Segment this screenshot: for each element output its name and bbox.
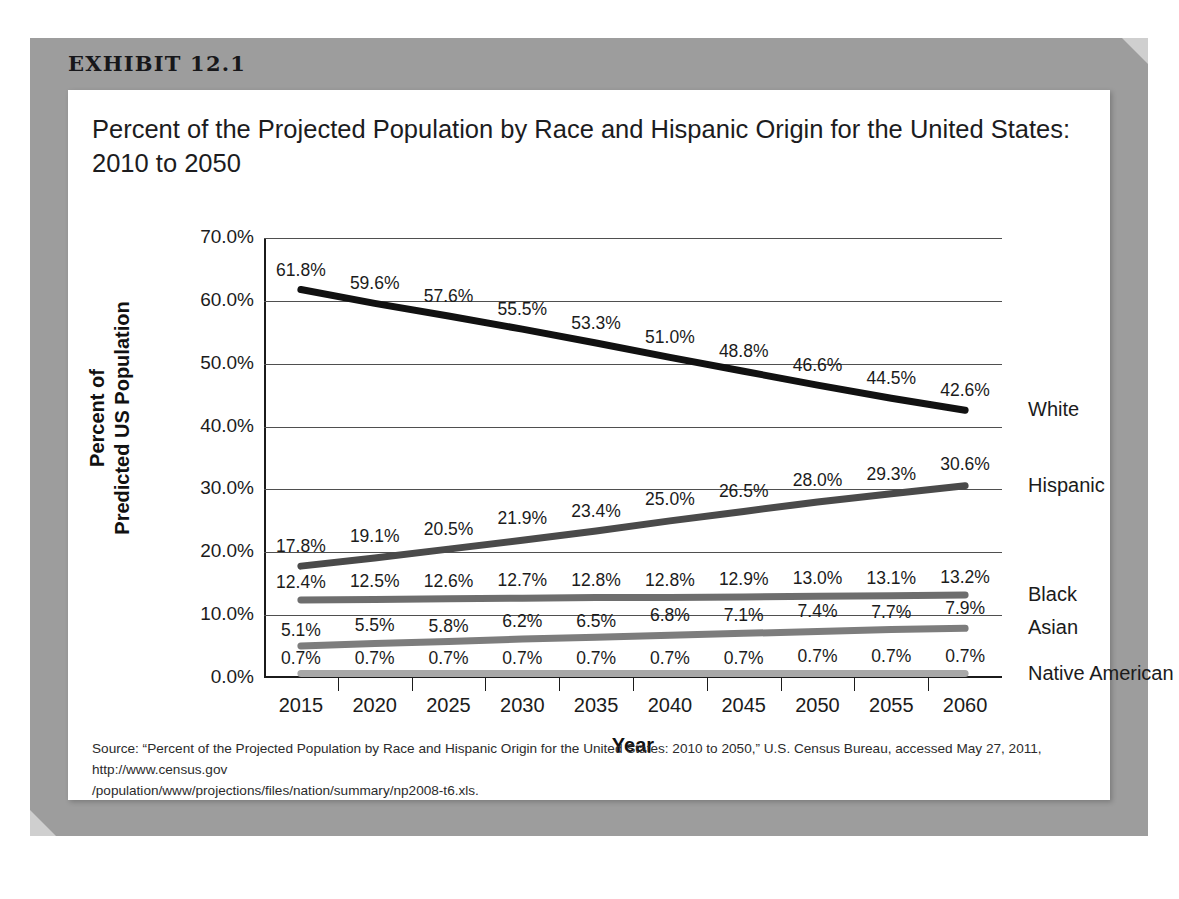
series-label-hispanic: Hispanic <box>1028 474 1105 497</box>
y-tick-label: 40.0% <box>200 415 254 437</box>
data-point-label: 13.1% <box>866 568 916 589</box>
x-tick-mark <box>559 678 560 691</box>
data-point-label: 6.5% <box>576 611 616 632</box>
data-point-label: 12.5% <box>350 571 400 592</box>
data-point-label: 6.2% <box>502 611 542 632</box>
data-point-label: 7.9% <box>945 598 985 619</box>
data-point-label: 51.0% <box>645 327 695 348</box>
data-point-label: 53.3% <box>571 313 621 334</box>
chart-plot-area: Percent of Predicted US Population 0.0%1… <box>68 208 1110 708</box>
exhibit-frame: EXHIBIT 12.1 Percent of the Projected Po… <box>30 38 1148 836</box>
data-point-label: 12.8% <box>645 570 695 591</box>
data-point-label: 55.5% <box>497 299 547 320</box>
series-line <box>301 628 965 646</box>
data-point-label: 26.5% <box>719 481 769 502</box>
x-tick-label: 2025 <box>414 694 484 717</box>
data-point-label: 0.7% <box>724 648 764 669</box>
data-point-label: 29.3% <box>866 464 916 485</box>
data-point-label: 0.7% <box>871 646 911 667</box>
x-tick-mark <box>338 678 339 691</box>
data-point-label: 13.0% <box>793 568 843 589</box>
data-point-label: 0.7% <box>945 646 985 667</box>
x-tick-label: 2050 <box>783 694 853 717</box>
data-point-label: 48.8% <box>719 341 769 362</box>
data-point-label: 23.4% <box>571 501 621 522</box>
x-tick-mark <box>412 678 413 691</box>
x-tick-mark <box>707 678 708 691</box>
x-tick-mark <box>854 678 855 691</box>
x-tick-label: 2055 <box>856 694 926 717</box>
y-axis-title-line2: Predicted US Population <box>110 268 135 568</box>
data-point-label: 6.8% <box>650 605 690 626</box>
x-tick-label: 2060 <box>930 694 1000 717</box>
data-point-label: 0.7% <box>502 648 542 669</box>
data-point-label: 30.6% <box>940 454 990 475</box>
data-point-label: 0.7% <box>429 648 469 669</box>
data-point-label: 25.0% <box>645 489 695 510</box>
data-point-label: 5.1% <box>281 620 321 641</box>
series-label-native-american: Native American <box>1028 662 1174 685</box>
data-point-label: 19.1% <box>350 526 400 547</box>
data-point-label: 7.7% <box>871 602 911 623</box>
data-point-label: 7.4% <box>798 601 838 622</box>
data-point-label: 44.5% <box>866 368 916 389</box>
y-axis-title-line1: Percent of <box>86 369 108 467</box>
data-point-label: 0.7% <box>281 648 321 669</box>
data-point-label: 12.8% <box>571 570 621 591</box>
data-point-label: 46.6% <box>793 355 843 376</box>
source-note-line1: Source: “Percent of the Projected Popula… <box>92 738 1092 780</box>
data-point-label: 12.6% <box>424 571 474 592</box>
y-tick-label: 0.0% <box>211 666 254 688</box>
data-point-label: 0.7% <box>650 648 690 669</box>
x-tick-label: 2040 <box>635 694 705 717</box>
series-line <box>301 290 965 411</box>
data-point-label: 7.1% <box>724 605 764 626</box>
data-point-label: 59.6% <box>350 273 400 294</box>
y-tick-label: 30.0% <box>200 477 254 499</box>
data-point-label: 0.7% <box>798 646 838 667</box>
data-point-label: 5.5% <box>355 615 395 636</box>
data-point-label: 28.0% <box>793 470 843 491</box>
x-tick-mark <box>485 678 486 691</box>
x-tick-label: 2035 <box>561 694 631 717</box>
data-point-label: 21.9% <box>497 508 547 529</box>
data-point-label: 12.4% <box>276 572 326 593</box>
plot-canvas: 0.0%10.0%20.0%30.0%40.0%50.0%60.0%70.0% … <box>264 238 1002 678</box>
data-point-label: 61.8% <box>276 260 326 281</box>
y-tick-label: 60.0% <box>200 289 254 311</box>
exhibit-header: EXHIBIT 12.1 <box>30 38 1148 90</box>
data-point-label: 20.5% <box>424 519 474 540</box>
x-tick-mark <box>781 678 782 691</box>
y-tick-label: 70.0% <box>200 226 254 248</box>
source-note-line2: /population/www/projections/files/nation… <box>92 780 1092 801</box>
data-point-label: 57.6% <box>424 286 474 307</box>
exhibit-content-panel: Percent of the Projected Population by R… <box>68 90 1110 800</box>
y-axis-title: Percent of Predicted US Population <box>85 268 135 568</box>
data-point-label: 42.6% <box>940 380 990 401</box>
series-label-asian: Asian <box>1028 616 1078 639</box>
series-line <box>301 486 965 566</box>
chart-title: Percent of the Projected Population by R… <box>92 112 1072 180</box>
data-point-label: 0.7% <box>576 648 616 669</box>
y-tick-label: 20.0% <box>200 540 254 562</box>
series-line <box>301 595 965 600</box>
x-tick-label: 2030 <box>487 694 557 717</box>
data-point-label: 0.7% <box>355 648 395 669</box>
data-point-label: 12.7% <box>497 570 547 591</box>
data-point-label: 12.9% <box>719 569 769 590</box>
frame-bevel-bottom-left <box>30 810 56 836</box>
y-tick-label: 50.0% <box>200 352 254 374</box>
x-tick-label: 2045 <box>709 694 779 717</box>
y-tick-label: 10.0% <box>200 603 254 625</box>
data-point-label: 17.8% <box>276 536 326 557</box>
source-note: Source: “Percent of the Projected Popula… <box>92 738 1092 801</box>
x-tick-label: 2020 <box>340 694 410 717</box>
x-tick-label: 2015 <box>266 694 336 717</box>
exhibit-number: EXHIBIT 12.1 <box>68 51 246 76</box>
series-label-black: Black <box>1028 583 1077 606</box>
x-tick-mark <box>633 678 634 691</box>
series-label-white: White <box>1028 398 1079 421</box>
x-tick-mark <box>928 678 929 691</box>
data-point-label: 5.8% <box>429 616 469 637</box>
data-point-label: 13.2% <box>940 567 990 588</box>
